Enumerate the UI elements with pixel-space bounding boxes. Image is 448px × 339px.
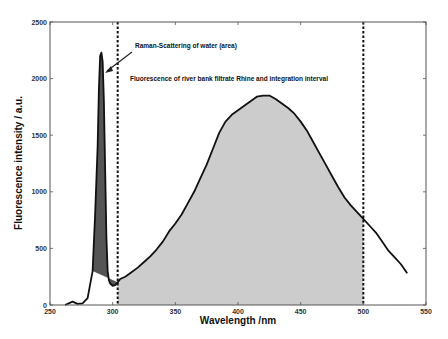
y-tick-label: 500 bbox=[35, 245, 47, 252]
x-tick-label: 400 bbox=[232, 308, 244, 315]
x-tick-label: 450 bbox=[295, 308, 307, 315]
fluorescence-chart: 250300350400450500550 050010001500200025… bbox=[0, 0, 448, 339]
y-tick-label: 1000 bbox=[31, 188, 47, 195]
x-tick-label: 300 bbox=[107, 308, 119, 315]
y-tick-label: 2000 bbox=[31, 75, 47, 82]
x-axis-title: Wavelength /nm bbox=[200, 315, 276, 326]
y-tick-label: 0 bbox=[43, 302, 47, 309]
annotation-fluorescence: Fluorescence of river bank filtrate Rhin… bbox=[130, 75, 328, 83]
shaded-regions bbox=[93, 53, 364, 305]
x-tick-label: 250 bbox=[44, 308, 56, 315]
x-tick-label: 350 bbox=[169, 308, 181, 315]
y-axis-title: Fluorescence intensity / a.u. bbox=[13, 96, 24, 230]
x-tick-label: 550 bbox=[420, 308, 432, 315]
y-tick-label: 1500 bbox=[31, 132, 47, 139]
y-tick-label: 2500 bbox=[31, 19, 47, 26]
x-tick-label: 500 bbox=[357, 308, 369, 315]
annotation-raman: Raman-Scattering of water (area) bbox=[135, 42, 237, 50]
integration-area bbox=[118, 96, 364, 305]
